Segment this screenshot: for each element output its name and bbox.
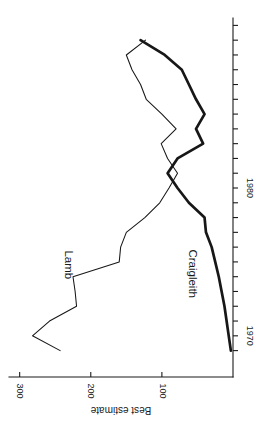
y-axis-tick-label: 100 (158, 383, 168, 398)
series-line-lamb (32, 40, 177, 350)
y-axis-best-estimate: 100200300 Best estimate (9, 372, 233, 416)
series-label-craigleith: Craigleith (187, 249, 199, 298)
y-axis-tick-labels: 100200300 (15, 383, 167, 398)
x-axis-year: 19701980 (233, 18, 255, 377)
x-axis-tick-label: 1970 (245, 326, 255, 346)
y-axis-tick-label: 200 (86, 383, 96, 398)
y-axis-tick-label: 300 (15, 383, 25, 398)
line-chart-plot: 19701980 100200300 Best estimate Lamb Cr… (0, 0, 268, 425)
data-series-group (32, 40, 230, 350)
y-axis-tick-marks (20, 372, 162, 377)
x-axis-tick-label: 1980 (245, 178, 255, 198)
x-axis-tick-marks (233, 25, 238, 350)
x-axis-tick-labels: 19701980 (245, 178, 255, 346)
chart-figure: 19701980 100200300 Best estimate Lamb Cr… (0, 0, 268, 425)
series-label-lamb: Lamb (63, 250, 75, 279)
series-line-craigleith (141, 40, 231, 350)
y-axis-title: Best estimate (90, 405, 151, 416)
